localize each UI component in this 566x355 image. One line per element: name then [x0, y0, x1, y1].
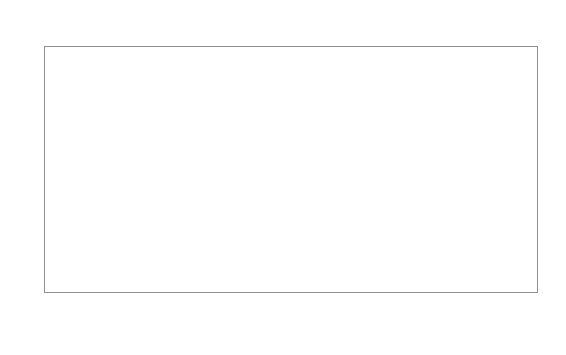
chart-figure	[0, 0, 566, 355]
chart-overlay	[0, 0, 566, 355]
x-axis-label	[348, 314, 560, 325]
